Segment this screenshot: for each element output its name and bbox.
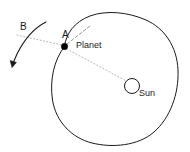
label-sun: Sun <box>139 89 155 98</box>
label-point-b: B <box>20 22 27 32</box>
orbit-diagram <box>0 0 190 152</box>
trajectory-arrowhead <box>10 61 16 68</box>
label-point-a: A <box>62 30 69 40</box>
figure-canvas: B A Planet Sun <box>0 0 190 152</box>
guide-dotted-line <box>17 35 62 45</box>
orbit-path <box>52 13 178 146</box>
trajectory-arrow-b <box>13 22 46 63</box>
label-planet: Planet <box>76 41 102 50</box>
planet-dot <box>61 43 67 49</box>
sun-circle <box>125 79 140 94</box>
